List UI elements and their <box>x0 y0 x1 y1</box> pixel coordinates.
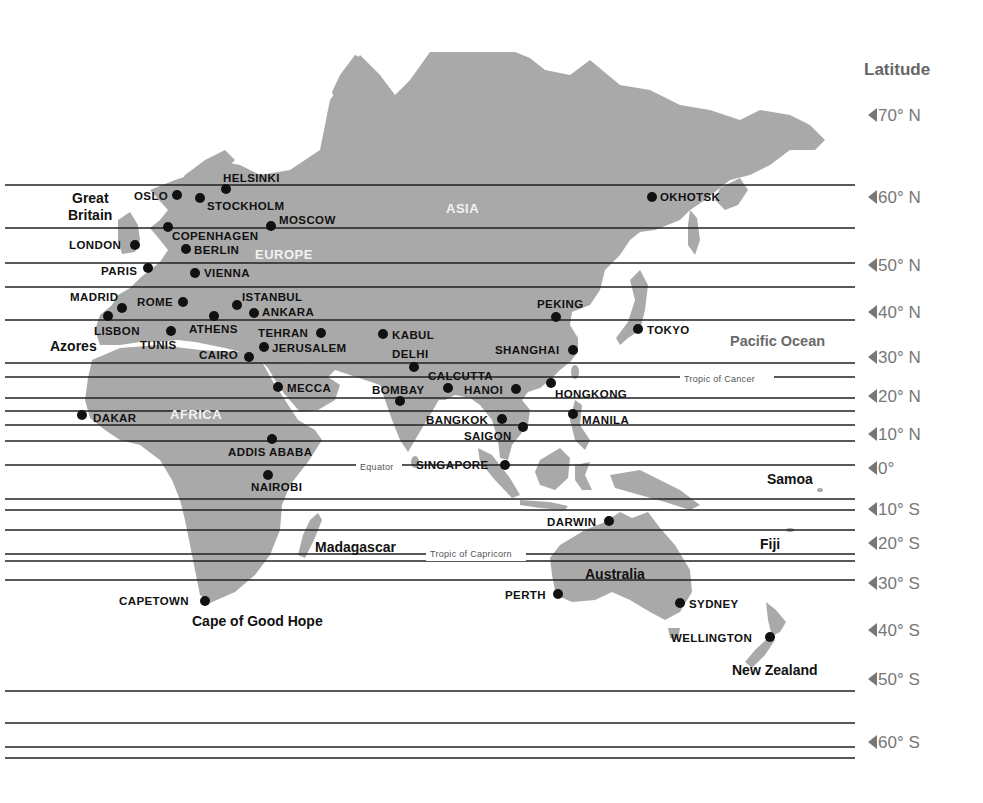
equator-label: Equator <box>360 462 394 472</box>
legend-title: Latitude <box>864 60 930 79</box>
city-label: OSLO <box>134 190 168 202</box>
city-dot-icon <box>604 516 614 526</box>
latitude-tick-label: 50° N <box>878 256 921 275</box>
latitude-tick-label: 30° N <box>878 348 921 367</box>
city-dot-icon <box>166 326 176 336</box>
latitude-tick-label: 70° N <box>878 106 921 125</box>
city-dot-icon <box>378 329 388 339</box>
triangle-left-icon <box>868 735 877 749</box>
java-landmass <box>520 500 568 510</box>
city-label: LONDON <box>69 239 121 251</box>
city-label: TOKYO <box>647 324 690 336</box>
latitude-tick: 20° N <box>868 387 921 406</box>
ocean-labels: Pacific Ocean <box>730 333 825 349</box>
latitude-tick-label: 40° S <box>878 621 920 640</box>
city-marker: DAKAR <box>77 410 137 424</box>
city-marker: ROME <box>137 296 188 308</box>
latitude-tick: 0° <box>868 459 894 478</box>
latitude-tick-label: 50° S <box>878 670 920 689</box>
latitude-tick: 30° S <box>868 574 920 593</box>
city-dot-icon <box>130 240 140 250</box>
sakhalin-landmass <box>688 210 700 255</box>
continent-label: EUROPE <box>255 247 313 262</box>
city-marker: MECCA <box>273 382 331 394</box>
city-dot-icon <box>675 598 685 608</box>
city-label: CAIRO <box>199 349 238 361</box>
city-dot-icon <box>267 434 277 444</box>
triangle-left-icon <box>868 258 877 272</box>
city-dot-icon <box>511 384 521 394</box>
sumatra-landmass <box>478 448 520 498</box>
latitude-tick: 10° N <box>868 425 921 444</box>
city-dot-icon <box>103 311 113 321</box>
city-dot-icon <box>500 460 510 470</box>
city-label: WELLINGTON <box>671 632 752 644</box>
city-label: MOSCOW <box>279 214 336 226</box>
city-label: DARWIN <box>547 516 596 528</box>
city-label: COPENHAGEN <box>172 230 258 242</box>
city-dot-icon <box>209 311 219 321</box>
latitude-tick: 60° S <box>868 733 920 752</box>
city-marker: TOKYO <box>633 324 690 336</box>
city-label: BERLIN <box>194 244 239 256</box>
triangle-left-icon <box>868 305 877 319</box>
latitude-tick-label: 60° S <box>878 733 920 752</box>
latitude-tick: 20° S <box>868 534 920 553</box>
tropic-of-capricorn-label: Tropic of Capricorn <box>430 549 512 559</box>
ocean-label: Pacific Ocean <box>730 333 825 349</box>
world-latitude-map: Equator Tropic of Cancer Tropic of Capri… <box>0 0 983 803</box>
latitude-tick-label: 10° N <box>878 425 921 444</box>
city-label: PERTH <box>505 589 546 601</box>
latitude-legend: Latitude 70° N60° N50° N40° N30° N20° N1… <box>864 60 930 752</box>
city-dot-icon <box>259 342 269 352</box>
region-label: Samoa <box>767 471 813 487</box>
city-label: HANOI <box>464 384 503 396</box>
city-label: SINGAPORE <box>416 459 489 471</box>
city-dot-icon <box>568 345 578 355</box>
latitude-tick: 10° S <box>868 500 920 519</box>
latitude-tick-label: 20° S <box>878 534 920 553</box>
latitude-tick-label: 0° <box>878 459 894 478</box>
city-label: CALCUTTA <box>428 370 493 382</box>
city-dot-icon <box>497 414 507 424</box>
city-dot-icon <box>172 190 182 200</box>
region-label: Azores <box>50 338 97 354</box>
latitude-tick-label: 20° N <box>878 387 921 406</box>
city-dot-icon <box>117 303 127 313</box>
latitude-tick-label: 30° S <box>878 574 920 593</box>
latitude-tick-label: 60° N <box>878 188 921 207</box>
city-label: ADDIS ABABA <box>228 446 312 458</box>
latitude-tick: 50° N <box>868 256 921 275</box>
city-label: TEHRAN <box>258 327 308 339</box>
city-dot-icon <box>263 470 273 480</box>
new-zealand-north-landmass <box>766 602 786 636</box>
continent-label: AFRICA <box>170 407 222 422</box>
city-dot-icon <box>244 352 254 362</box>
latitude-tick: 70° N <box>868 106 921 125</box>
latitude-tick: 40° N <box>868 303 921 322</box>
city-dot-icon <box>190 268 200 278</box>
city-label: ANKARA <box>262 306 314 318</box>
continent-label: ASIA <box>446 201 479 216</box>
city-dot-icon <box>181 244 191 254</box>
triangle-left-icon <box>868 576 877 590</box>
city-marker: PERTH <box>505 589 563 601</box>
latitude-tick: 30° N <box>868 348 921 367</box>
triangle-left-icon <box>868 672 877 686</box>
city-label: STOCKHOLM <box>207 200 285 212</box>
city-label: SAIGON <box>464 430 512 442</box>
city-marker: HONGKONG <box>546 378 627 400</box>
city-label: BOMBAY <box>372 384 424 396</box>
city-label: JERUSALEM <box>272 342 347 354</box>
city-label: ROME <box>137 296 173 308</box>
city-dot-icon <box>765 632 775 642</box>
city-label: SYDNEY <box>689 598 739 610</box>
latitude-ticks: 70° N60° N50° N40° N30° N20° N10° N0°10°… <box>868 106 921 752</box>
sulawesi-landmass <box>575 462 592 490</box>
city-dot-icon <box>633 324 643 334</box>
city-label: HELSINKI <box>223 172 280 184</box>
triangle-left-icon <box>868 536 877 550</box>
city-dot-icon <box>647 192 657 202</box>
region-label: Madagascar <box>315 539 396 555</box>
latitude-tick: 60° N <box>868 188 921 207</box>
